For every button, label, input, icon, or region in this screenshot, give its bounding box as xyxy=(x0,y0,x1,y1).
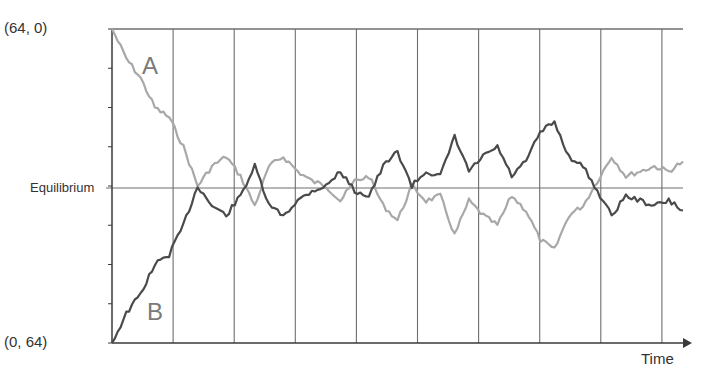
x-axis-label: Time xyxy=(641,350,674,367)
series-a-line xyxy=(112,29,683,247)
y-bottom-label: (0, 64) xyxy=(4,333,47,350)
series-b-label: B xyxy=(147,298,163,326)
chart-canvas xyxy=(0,0,714,390)
y-top-label: (64, 0) xyxy=(4,19,47,36)
x-axis-arrow-icon xyxy=(683,338,692,348)
series-a-label: A xyxy=(142,52,158,80)
equilibrium-label: Equilibrium xyxy=(30,180,94,195)
series-b-line xyxy=(112,121,683,343)
